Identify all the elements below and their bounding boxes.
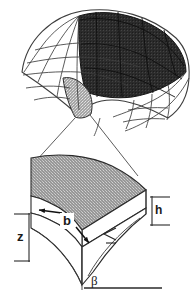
magnified-wedge-element (31, 155, 146, 290)
label-h: h (155, 204, 162, 216)
technical-figure: b z h β (0, 0, 195, 297)
label-b: b (60, 213, 74, 229)
upper-shell-surface (22, 10, 189, 136)
label-z: z (17, 230, 24, 243)
label-beta: β (91, 274, 98, 287)
figure-canvas (0, 0, 195, 297)
